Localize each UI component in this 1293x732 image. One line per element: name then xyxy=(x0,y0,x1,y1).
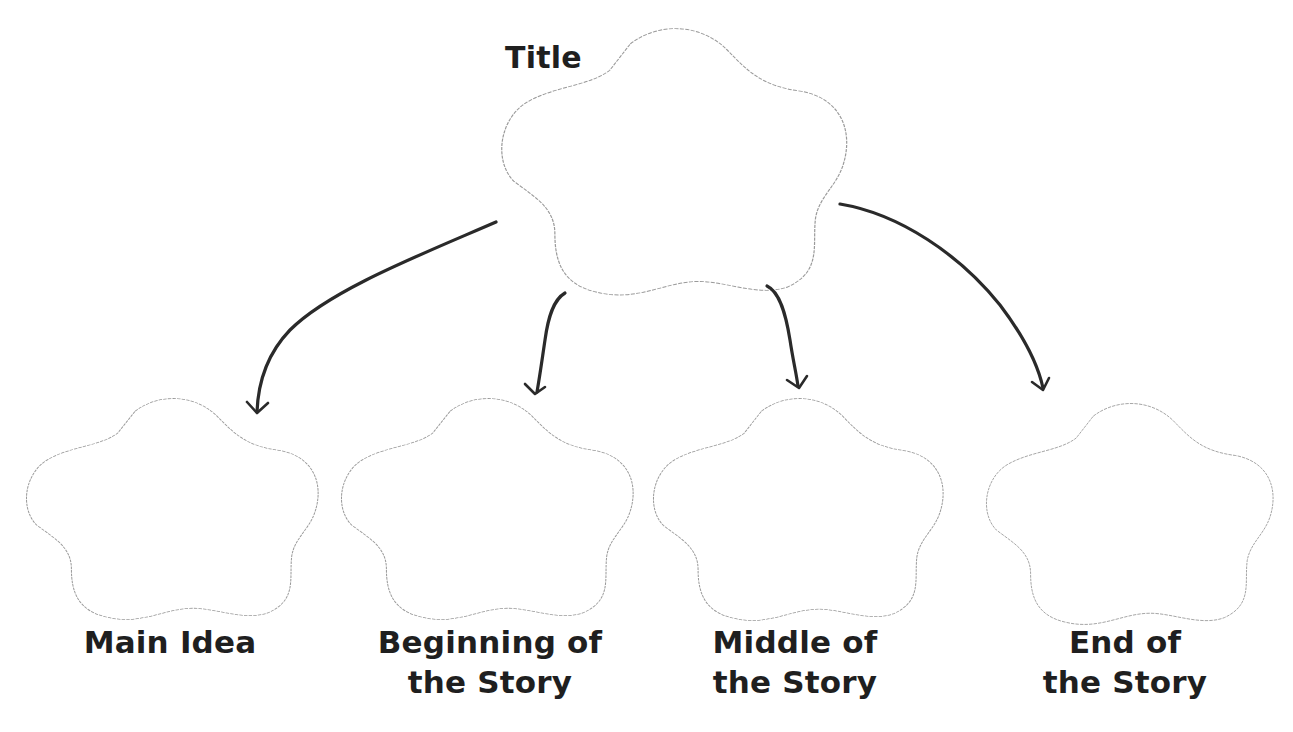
arrow-to-end xyxy=(840,204,1049,390)
arrow-to-beginning xyxy=(525,293,565,394)
label-line-1: Beginning of xyxy=(355,622,625,662)
arrow-to-main-idea xyxy=(247,222,496,413)
label-line-1: Main Idea xyxy=(40,622,300,662)
main-idea-shape[interactable] xyxy=(26,399,318,620)
middle-label: Middle of the Story xyxy=(665,622,925,702)
beginning-label: Beginning of the Story xyxy=(355,622,625,702)
label-line-1: End of xyxy=(1000,622,1250,662)
middle-shape[interactable] xyxy=(653,399,943,621)
label-line-2: the Story xyxy=(355,662,625,702)
title-text: Title xyxy=(505,38,605,78)
beginning-shape[interactable] xyxy=(341,399,633,620)
end-label: End of the Story xyxy=(1000,622,1250,702)
end-shape[interactable] xyxy=(986,404,1273,625)
label-line-2: the Story xyxy=(665,662,925,702)
arrow-to-middle xyxy=(767,286,807,388)
label-line-2: the Story xyxy=(1000,662,1250,702)
main-idea-label: Main Idea xyxy=(40,622,300,662)
label-line-1: Middle of xyxy=(665,622,925,662)
title-label: Title xyxy=(505,38,605,78)
